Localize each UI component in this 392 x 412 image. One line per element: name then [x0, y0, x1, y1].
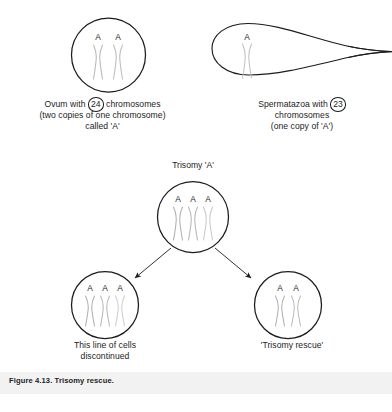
trisomy-parent-circle: [158, 182, 229, 253]
ovum-caption-line-3: called 'A': [0, 121, 205, 132]
arrow-to-right-child: [215, 248, 251, 278]
trisomy-parent-letter-1: A: [175, 194, 181, 204]
trisomy-parent-cell: A A A: [158, 182, 229, 253]
spermatazoa-cell: A: [212, 24, 392, 79]
ovum-chromosome-count-badge: 24: [88, 99, 104, 110]
trisomy-parent-label: Trisomy 'A': [143, 160, 243, 171]
sperm-caption: Spermatazoa with 23 chromosomes (one cop…: [212, 99, 392, 133]
right-child-cell: A A: [255, 272, 322, 339]
trisomy-parent-letter-2: A: [190, 194, 196, 204]
sperm-caption-line-2: chromosomes: [212, 110, 392, 121]
ovum-caption-line-1: Ovum with 24 chromosomes: [0, 99, 205, 110]
right-child-letter-2: A: [293, 283, 299, 293]
sperm-chromosome-letter-1: A: [244, 32, 250, 42]
ovum-chromosome-letter-2: A: [115, 32, 121, 42]
right-child-letter-1: A: [277, 283, 283, 293]
trisomy-parent-letter-3: A: [205, 194, 211, 204]
ovum-caption: Ovum with 24 chromosomes (two copies of …: [0, 99, 205, 133]
arrow-to-left-child: [135, 248, 171, 278]
ovum-circle: [72, 18, 146, 92]
left-child-cell: A A A: [72, 272, 139, 339]
ovum-cell: A A: [72, 18, 146, 92]
left-child-caption: This line of cells discontinued: [40, 340, 170, 362]
ovum-caption-line-2: (two copies of one chromosome): [0, 110, 205, 121]
sperm-caption-line-3: (one copy of 'A'): [212, 121, 392, 132]
left-child-letter-1: A: [87, 283, 93, 293]
trisomy-rescue-figure: A A A A A A: [0, 0, 392, 412]
left-child-letter-3: A: [117, 283, 123, 293]
left-child-caption-line-2: discontinued: [40, 351, 170, 362]
figure-caption: Figure 4.13. Trisomy rescue.: [9, 376, 114, 385]
left-child-caption-line-1: This line of cells: [40, 340, 170, 351]
left-child-circle: [72, 272, 139, 339]
right-child-caption-line-1: 'Trisomy rescue': [232, 340, 352, 351]
ovum-chromosome-letter-1: A: [95, 32, 101, 42]
right-child-caption: 'Trisomy rescue': [232, 340, 352, 351]
right-child-circle: [255, 272, 322, 339]
left-child-letter-2: A: [102, 283, 108, 293]
sperm-chromosome-count-badge: 23: [330, 99, 346, 110]
sperm-caption-line-1: Spermatazoa with 23: [212, 99, 392, 110]
